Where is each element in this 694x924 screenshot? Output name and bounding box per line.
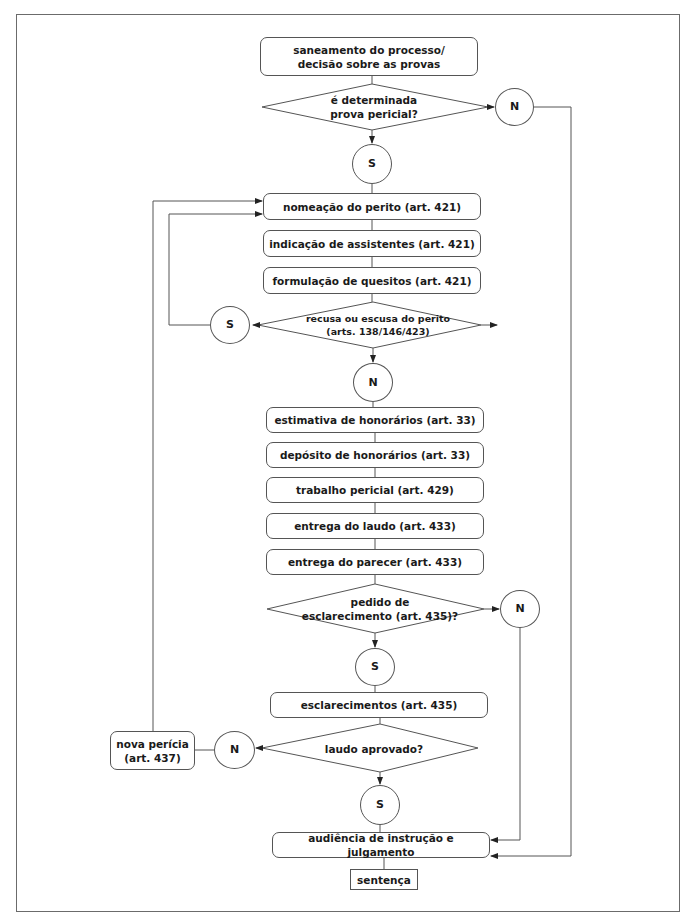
decision-recusa-label: recusa ou escusa do perito (arts. 138/14… [306, 312, 450, 338]
node-nova-pericia: nova perícia (art. 437) [110, 731, 195, 770]
node-indicacao: indicação de assistentes (art. 421) [263, 230, 481, 257]
node-audiencia: audiência de instrução e julgamento [272, 832, 490, 858]
node-esclarecimentos: esclarecimentos (art. 435) [270, 692, 488, 718]
node-entrega-laudo: entrega do laudo (art. 433) [266, 513, 484, 539]
node-estimativa: estimativa de honorários (art. 33) [266, 407, 484, 433]
node-sentenca: sentença [350, 869, 418, 890]
connector-n4: N [214, 731, 255, 769]
node-nomeacao: nomeação do perito (art. 421) [263, 193, 481, 220]
node-deposito: depósito de honorários (art. 33) [266, 442, 484, 468]
connector-n1: N [495, 88, 534, 126]
node-formulacao: formulação de quesitos (art. 421) [263, 267, 481, 294]
decision-prova-label: é determinada prova pericial? [330, 93, 418, 121]
connector-s1: S [352, 144, 392, 184]
decision-laudo-label: laudo aprovado? [325, 742, 423, 756]
connector-n2: N [353, 363, 393, 402]
connector-s4: S [360, 785, 400, 825]
connector-n3: N [500, 590, 540, 628]
node-trabalho: trabalho pericial (art. 429) [266, 477, 484, 503]
decision-esclarecimento-label: pedido de esclarecimento (art. 435)? [302, 595, 458, 623]
connector-s2: S [210, 306, 250, 344]
node-entrega-parecer: entrega do parecer (art. 433) [266, 549, 484, 575]
node-saneamento: saneamento do processo/ decisão sobre as… [260, 37, 478, 76]
connector-s3: S [355, 648, 395, 686]
